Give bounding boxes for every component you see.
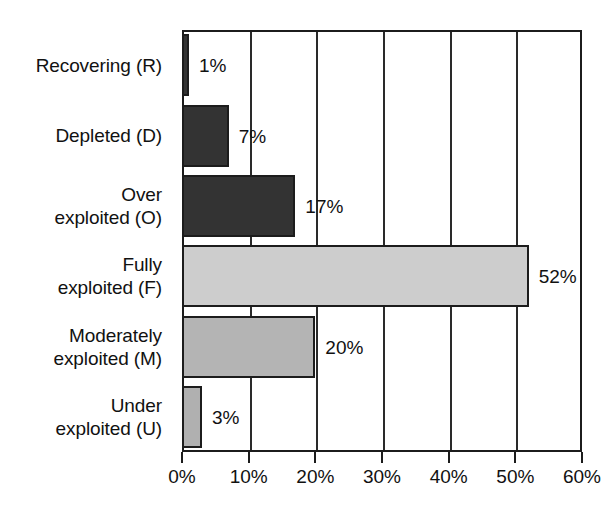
- bar-value-label: 3%: [212, 408, 239, 427]
- category-label-line2: exploited (O): [0, 206, 162, 229]
- category-label-line1: Recovering (R): [36, 55, 162, 76]
- bar: [182, 316, 315, 378]
- category-label-line1: Fully: [122, 254, 162, 275]
- category-label: Moderatelyexploited (M): [0, 324, 162, 370]
- bar: [182, 175, 295, 237]
- bar-value-label: 1%: [199, 56, 226, 75]
- category-axis-labels: Recovering (R)Depleted (D)Overexploited …: [0, 30, 172, 452]
- category-label-line1: Under: [111, 395, 162, 416]
- bar-value-label: 20%: [325, 338, 363, 357]
- x-axis-tick-label: 30%: [352, 466, 412, 488]
- category-label-line1: Moderately: [69, 325, 162, 346]
- category-label: Fullyexploited (F): [0, 253, 162, 299]
- x-axis-tick-label: 50%: [485, 466, 545, 488]
- category-label-line1: Over: [121, 184, 162, 205]
- x-axis-tick: [448, 452, 450, 463]
- category-label-line2: exploited (F): [0, 276, 162, 299]
- bar-value-label: 52%: [539, 267, 577, 286]
- bar-value-label: 7%: [239, 127, 266, 146]
- x-axis-tick: [248, 452, 250, 463]
- category-label: Recovering (R): [0, 54, 162, 77]
- x-axis-tick: [181, 452, 183, 463]
- category-label-line2: exploited (M): [0, 347, 162, 370]
- x-axis-tick: [314, 452, 316, 463]
- x-axis-tick-label: 0%: [152, 466, 212, 488]
- bar: [182, 105, 229, 167]
- x-axis-tick-label: 10%: [219, 466, 279, 488]
- category-label-line1: Depleted (D): [55, 125, 162, 146]
- bar-series: 1%7%17%52%20%3%: [182, 30, 582, 452]
- x-axis-tick: [381, 452, 383, 463]
- x-axis-tick-labels: 0%10%20%30%40%50%60%: [0, 466, 616, 496]
- x-axis-ticks: [182, 452, 582, 456]
- bar: [182, 34, 189, 96]
- bar-chart: Recovering (R)Depleted (D)Overexploited …: [0, 0, 616, 519]
- category-label: Underexploited (U): [0, 394, 162, 440]
- x-axis-tick-label: 20%: [285, 466, 345, 488]
- bar: [182, 386, 202, 448]
- bar-value-label: 17%: [305, 197, 343, 216]
- category-label: Depleted (D): [0, 124, 162, 147]
- x-axis-tick-label: 40%: [419, 466, 479, 488]
- x-axis-tick: [581, 452, 583, 463]
- category-label: Overexploited (O): [0, 183, 162, 229]
- x-axis-tick-label: 60%: [552, 466, 612, 488]
- category-label-line2: exploited (U): [0, 417, 162, 440]
- bar: [182, 245, 529, 307]
- x-axis-tick: [514, 452, 516, 463]
